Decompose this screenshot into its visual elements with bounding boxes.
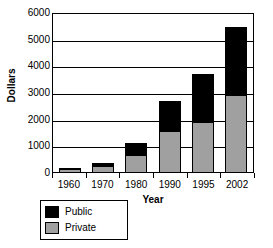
y-axis-title: Dollars <box>6 51 17 121</box>
bar-stack[interactable] <box>125 143 147 172</box>
bar-segment-public[interactable] <box>225 27 247 95</box>
y-tick-label: 5000 <box>16 35 50 45</box>
bar-segment-private[interactable] <box>125 155 147 172</box>
legend-row[interactable]: Public <box>45 204 123 220</box>
bar-group[interactable] <box>59 14 81 172</box>
bars-layer <box>53 14 253 172</box>
bar-segment-public[interactable] <box>159 101 181 132</box>
legend-swatch-public <box>45 206 59 218</box>
bar-group[interactable] <box>225 14 247 172</box>
bar-stack[interactable] <box>159 101 181 172</box>
legend-row[interactable]: Private <box>45 220 123 236</box>
plot-area <box>52 13 254 173</box>
legend-label: Public <box>65 206 92 218</box>
bar-group[interactable] <box>192 14 214 172</box>
y-tick-label: 3000 <box>16 88 50 98</box>
x-axis-ticks <box>52 173 254 178</box>
bar-stack[interactable] <box>59 168 81 172</box>
bar-group[interactable] <box>159 14 181 172</box>
y-tick-label: 0 <box>16 168 50 178</box>
bar-group[interactable] <box>125 14 147 172</box>
bar-stack[interactable] <box>92 163 114 172</box>
bar-segment-private[interactable] <box>59 169 81 172</box>
y-axis-tick-labels: 0100020003000400050006000 <box>16 13 50 173</box>
x-tick <box>220 173 221 178</box>
y-tick-label: 4000 <box>16 61 50 71</box>
y-tick-label: 2000 <box>16 115 50 125</box>
x-tick-label: 1970 <box>86 179 118 193</box>
legend-label: Private <box>65 222 96 234</box>
x-tick <box>119 173 120 178</box>
x-tick <box>153 173 154 178</box>
x-tick-label: 1995 <box>187 179 219 193</box>
bar-segment-private[interactable] <box>92 166 114 172</box>
bar-stack[interactable] <box>225 27 247 172</box>
y-tick-label: 1000 <box>16 141 50 151</box>
bar-segment-private[interactable] <box>225 95 247 172</box>
x-tick <box>52 173 53 178</box>
x-tick-label: 1980 <box>120 179 152 193</box>
x-tick <box>187 173 188 178</box>
chart-legend: PublicPrivate <box>40 200 128 240</box>
x-tick-label: 2002 <box>221 179 253 193</box>
x-tick <box>254 173 255 178</box>
bar-segment-public[interactable] <box>192 74 214 122</box>
bar-segment-public[interactable] <box>125 143 147 154</box>
bar-group[interactable] <box>92 14 114 172</box>
x-axis-tick-labels: 196019701980199019952002 <box>52 179 254 193</box>
y-tick-label: 6000 <box>16 8 50 18</box>
bar-chart: Dollars 0100020003000400050006000 196019… <box>0 0 273 248</box>
bar-stack[interactable] <box>192 74 214 172</box>
bar-segment-private[interactable] <box>192 122 214 172</box>
x-tick <box>86 173 87 178</box>
legend-swatch-private <box>45 222 59 234</box>
bar-segment-private[interactable] <box>159 131 181 172</box>
x-tick-label: 1990 <box>154 179 186 193</box>
x-tick-label: 1960 <box>53 179 85 193</box>
